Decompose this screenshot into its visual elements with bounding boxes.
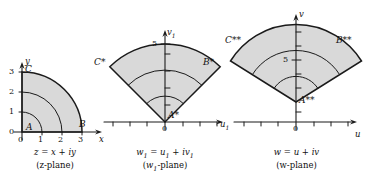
z-ytick-0: 0 — [9, 127, 14, 136]
w-xtick-0: 0 — [293, 124, 298, 133]
w-plane-plot — [228, 4, 365, 139]
w1-caption-formula: w1 = u1 + iv1 — [100, 147, 230, 160]
z-point-A: A — [26, 122, 33, 132]
z-point-C: C — [25, 64, 32, 74]
w-axis-y-label: v — [299, 9, 304, 19]
w-point-C-double-star: C** — [225, 35, 241, 45]
z-ytick-3: 3 — [9, 67, 14, 76]
w1-point-C-star: C* — [94, 57, 105, 67]
w-axis-x-label: u — [355, 129, 360, 139]
z-caption-formula: z = x + iy — [0, 147, 110, 157]
w-point-A-double-star: A** — [299, 95, 315, 105]
z-xtick-3: 3 — [78, 135, 83, 144]
z-plane-plot — [0, 40, 110, 145]
w1-axis-y-label: v1 — [167, 27, 176, 39]
z-ytick-1: 1 — [9, 107, 14, 116]
z-xtick-0: 0 — [18, 135, 23, 144]
z-xtick-1: 1 — [38, 135, 43, 144]
w1-caption-plane: (w1-plane) — [100, 160, 230, 173]
z-caption-plane: (z-plane) — [0, 160, 110, 170]
z-ytick-2: 2 — [9, 87, 14, 96]
w1-point-B-star: B* — [203, 57, 214, 67]
conformal-mapping-figure: 0 1 2 3 0 1 2 3 x y A B C z = x + iy (z-… — [0, 0, 365, 176]
z-point-B: B — [79, 119, 86, 129]
z-xtick-2: 2 — [58, 135, 63, 144]
w-caption-formula: w = u + iv — [228, 147, 365, 157]
w1-point-A-star: A* — [168, 110, 179, 120]
w-point-B-double-star: B** — [336, 35, 352, 45]
w1-ytick-5: 5 — [152, 39, 157, 48]
w1-plane-plot — [100, 14, 230, 139]
w1-xtick-0: 0 — [162, 124, 167, 133]
w-ytick-5: 5 — [283, 55, 288, 64]
w-caption-plane: (w-plane) — [228, 160, 365, 170]
